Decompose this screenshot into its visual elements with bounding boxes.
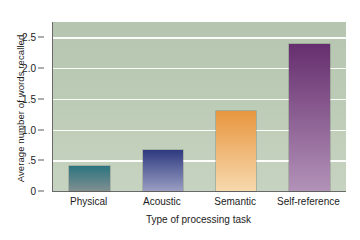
x-tick-label: Self-reference <box>277 196 340 207</box>
x-axis-title: Type of processing task <box>52 214 345 225</box>
x-tick-label: Physical <box>70 196 107 207</box>
y-tick-label: .5 <box>28 155 36 166</box>
y-tick-mark <box>38 37 44 38</box>
bar-acoustic <box>143 150 183 191</box>
y-tick-mark <box>38 129 44 130</box>
y-tick-mark <box>38 191 44 192</box>
y-tick-label: 0 <box>30 186 36 197</box>
y-tick-mark <box>38 68 44 69</box>
x-axis-tick-labels: PhysicalAcousticSemanticSelf-reference <box>52 196 345 214</box>
bar-chart-figure: Average number of words recalled 0.51.01… <box>0 0 360 240</box>
bar-self-reference <box>289 44 329 191</box>
plot-area <box>52 22 346 192</box>
y-tick-label: 2.0 <box>22 63 36 74</box>
bar-semantic <box>216 111 256 191</box>
y-tick-label: 1.5 <box>22 93 36 104</box>
y-tick-label: 1.0 <box>22 124 36 135</box>
y-tick-mark <box>38 160 44 161</box>
bar-series <box>53 22 346 191</box>
x-tick-label: Semantic <box>214 196 256 207</box>
bar-physical <box>69 166 109 191</box>
y-axis-tick-labels: 0.51.01.52.02.5 <box>0 0 44 240</box>
y-tick-mark <box>38 98 44 99</box>
y-tick-label: 2.5 <box>22 32 36 43</box>
x-tick-label: Acoustic <box>143 196 181 207</box>
